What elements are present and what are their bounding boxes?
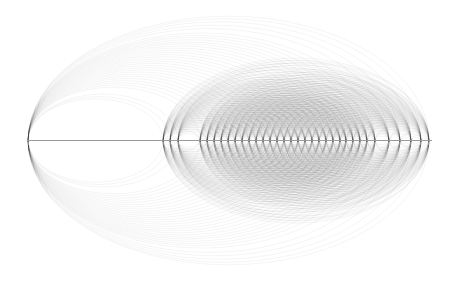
node-marker	[170, 142, 171, 145]
node-marker	[284, 142, 285, 145]
arc-diagram	[0, 0, 453, 288]
node-marker	[178, 142, 179, 145]
node-marker	[235, 142, 236, 145]
node-marker	[305, 142, 306, 145]
node-marker	[346, 142, 347, 145]
node-marker	[270, 142, 271, 145]
node-marker	[200, 142, 201, 145]
node-marker	[326, 142, 327, 145]
node-marker	[291, 142, 292, 145]
node-marker	[163, 142, 164, 145]
edge-arc	[389, 137, 400, 140]
node-marker	[319, 142, 320, 145]
node-marker	[411, 142, 412, 145]
node-marker	[228, 142, 229, 145]
node-marker	[277, 142, 278, 145]
node-marker	[312, 142, 313, 145]
node-marker	[400, 142, 401, 145]
node-marker	[28, 142, 29, 145]
edge-arc	[28, 141, 178, 188]
node-marker	[429, 142, 430, 145]
node-marker	[249, 142, 250, 145]
node-marker	[333, 142, 334, 145]
node-marker	[221, 142, 222, 145]
node-marker	[389, 142, 390, 145]
node-marker	[256, 142, 257, 145]
node-marker	[263, 142, 264, 145]
node-marker	[242, 142, 243, 145]
edge-arc	[400, 137, 411, 140]
edge-arc	[400, 141, 411, 144]
lower-arcs	[28, 141, 429, 265]
node-marker	[298, 142, 299, 145]
edge-arc	[375, 141, 389, 145]
edge-arc	[389, 141, 400, 144]
node-marker	[375, 142, 376, 145]
node-marker	[360, 142, 361, 145]
node-marker	[340, 142, 341, 145]
node-marker	[207, 142, 208, 145]
upper-arcs	[28, 16, 429, 140]
node-marker	[353, 142, 354, 145]
node-marker	[367, 142, 368, 145]
node-marker	[421, 142, 422, 145]
edge-arc	[28, 99, 163, 141]
edge-arc	[28, 141, 163, 183]
node-marker	[214, 142, 215, 145]
edge-arc	[375, 136, 389, 140]
edge-arc	[28, 94, 178, 141]
